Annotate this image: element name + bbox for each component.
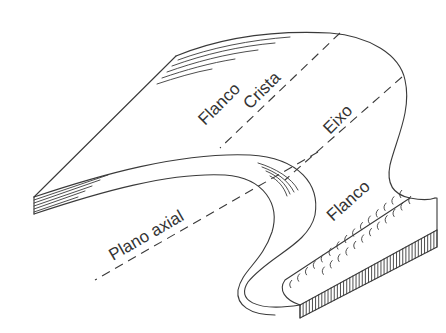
bedding-tick (409, 196, 411, 204)
bedding-tick (346, 247, 348, 255)
bedding-tick (377, 222, 379, 230)
label-flanco-bottom: Flanco (323, 177, 374, 225)
label-flanco-top: Flanco (194, 79, 244, 129)
base-block (300, 198, 437, 318)
bedding-tick (298, 274, 300, 282)
bedding-tick (369, 228, 371, 236)
bedding-tick (313, 261, 315, 269)
bedding-tick (322, 267, 324, 275)
eixo-line (285, 77, 402, 180)
bedding-tick (329, 248, 331, 256)
bedding-tick (400, 190, 402, 198)
plano-axial-line (95, 152, 318, 280)
bedding-tick (305, 267, 307, 275)
bedding-tick (362, 235, 364, 243)
bedding-tick (368, 216, 370, 224)
bedding-tick (338, 254, 340, 262)
bedding-tick (330, 260, 332, 268)
label-crista: Crista (239, 68, 284, 113)
bedding-tick (290, 280, 292, 288)
label-eixo: Eixo (319, 101, 356, 138)
bedding-tick (393, 209, 395, 217)
label-plano-axial: Plano axial (106, 206, 188, 264)
bedding-tick (354, 241, 356, 249)
inner-band-lower (34, 175, 275, 315)
fold-diagram: Flanco Crista Eixo Plano axial Flanco (0, 0, 446, 333)
bedding-tick (385, 215, 387, 223)
bedding-tick (392, 196, 394, 204)
bedding-tick (376, 209, 378, 217)
bedding-tick (384, 203, 386, 211)
